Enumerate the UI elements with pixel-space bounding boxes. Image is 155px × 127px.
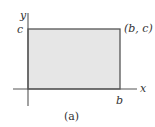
width-label-b: b [116,94,123,107]
figure-canvas: y c (b, c) x b (a) [0,0,155,127]
figure-caption: (a) [64,110,79,123]
height-label-c: c [17,23,23,36]
x-axis-label: x [140,82,147,95]
y-axis-label: y [19,9,27,22]
shaded-rectangle [28,29,120,89]
corner-label: (b, c) [124,22,153,35]
rectangle-region-figure: y c (b, c) x b (a) [0,0,155,127]
